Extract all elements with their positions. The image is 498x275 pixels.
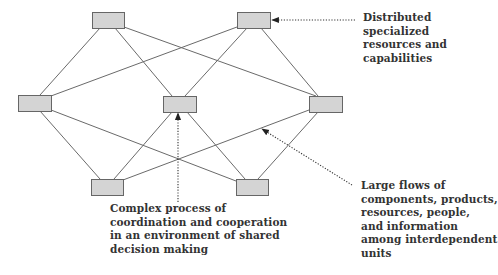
edge-top-right-to-mid-left — [51, 27, 237, 96]
edge-mid-center-to-bottom-left — [114, 112, 172, 179]
annotation-line: capabilities — [363, 52, 447, 66]
node-bottom-left — [92, 180, 124, 196]
node-mid-right — [310, 97, 343, 113]
annotation-line: resources and — [363, 38, 447, 52]
edge-top-right-to-mid-center — [185, 28, 247, 96]
node-mid-center — [164, 97, 197, 113]
node-top-left — [93, 13, 125, 29]
edge-top-left-to-mid-right — [124, 27, 316, 96]
annotation-distributed-resources: Distributed specialized resources and ca… — [363, 11, 447, 65]
edge-top-left-to-mid-left — [40, 28, 100, 95]
annotation-line: decision making — [110, 243, 287, 257]
annotation-line: resources, people, — [361, 206, 498, 220]
annotation-line: and information — [361, 220, 498, 234]
annotation-line: in an environment of shared — [110, 229, 287, 243]
annotation-line: Complex process of — [110, 202, 287, 216]
edge-mid-right-to-bottom-right — [258, 112, 318, 179]
annotation-line: units — [361, 247, 498, 261]
annotation-line: specialized — [363, 25, 447, 39]
edge-top-right-to-mid-right — [261, 28, 318, 96]
annotation-line: Distributed — [363, 11, 447, 25]
node-bottom-right — [237, 180, 269, 196]
annotation-large-flows: Large flows of components, products, res… — [361, 179, 498, 261]
edge-mid-right-to-bottom-left — [123, 110, 309, 180]
annotation-line: among interdependent — [361, 233, 498, 247]
annotation-line: Large flows of — [361, 179, 498, 193]
nodes-group — [19, 13, 343, 196]
dotted-arrow-large-flows — [262, 129, 352, 185]
annotation-line: coordination and cooperation — [110, 216, 287, 230]
annotation-complex-process: Complex process of coordination and coop… — [110, 202, 287, 256]
edge-mid-left-to-bottom-left — [40, 111, 100, 179]
annotation-line: components, products, — [361, 193, 498, 207]
node-top-right — [238, 13, 271, 29]
node-mid-left — [19, 96, 52, 112]
